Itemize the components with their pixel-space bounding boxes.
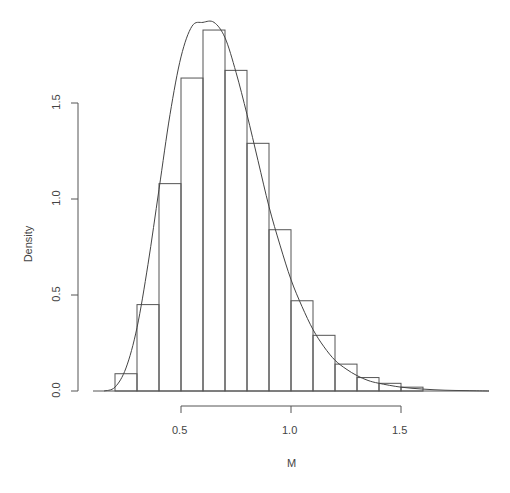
y-tick-label: 1.5 — [50, 94, 62, 109]
x-axis-label: M — [287, 457, 296, 469]
y-tick-label: 0.5 — [50, 286, 62, 301]
histogram-bar — [247, 143, 269, 391]
x-tick-label: 0.5 — [172, 424, 187, 436]
histogram-bar — [313, 335, 335, 391]
histogram-bar — [335, 364, 357, 391]
histogram-bars — [115, 30, 423, 391]
histogram-bar — [291, 301, 313, 391]
x-tick-label: 1.0 — [282, 424, 297, 436]
histogram-bar — [137, 305, 159, 391]
histogram-bar — [203, 30, 225, 391]
y-tick-label: 1.0 — [50, 190, 62, 205]
histogram-chart — [0, 0, 510, 493]
x-tick-label: 1.5 — [392, 424, 407, 436]
histogram-bar — [159, 184, 181, 391]
x-axis — [181, 406, 401, 413]
histogram-bar — [357, 378, 379, 391]
density-curve — [104, 21, 489, 391]
y-axis-label: Density — [22, 226, 34, 263]
y-tick-label: 0.0 — [50, 382, 62, 397]
y-axis — [71, 103, 78, 391]
histogram-bar — [269, 230, 291, 391]
histogram-bar — [225, 70, 247, 391]
histogram-bar — [181, 78, 203, 391]
